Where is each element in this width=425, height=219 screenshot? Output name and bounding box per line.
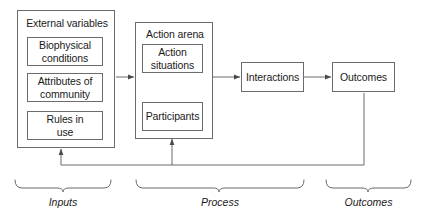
- biophysical-conditions-label: Biophysical conditions: [39, 39, 91, 64]
- interactions-box[interactable]: Interactions: [241, 62, 304, 92]
- phase-label-process: Process: [136, 196, 304, 208]
- attributes-of-community-line1: Attributes of: [38, 75, 93, 87]
- brace-inputs: [15, 180, 111, 192]
- action-situations-label: Action situations: [151, 46, 194, 71]
- brace-process: [136, 180, 304, 192]
- biophysical-conditions-line2: conditions: [42, 52, 88, 64]
- participants-label: Participants: [146, 110, 200, 123]
- interactions-label: Interactions: [246, 71, 299, 84]
- rules-in-use-box[interactable]: Rules in use: [27, 111, 103, 140]
- biophysical-conditions-line1: Biophysical: [39, 39, 91, 51]
- participants-box[interactable]: Participants: [142, 102, 203, 131]
- attributes-of-community-box[interactable]: Attributes of community: [27, 73, 103, 102]
- attributes-of-community-label: Attributes of community: [38, 75, 93, 100]
- action-situations-line1: Action: [158, 46, 187, 58]
- action-arena-title: Action arena: [136, 28, 214, 41]
- action-situations-line2: situations: [151, 59, 194, 71]
- attributes-of-community-line2: community: [40, 88, 90, 100]
- diagram-canvas: External variables Biophysical condition…: [0, 0, 425, 219]
- brace-outcomes: [326, 180, 411, 192]
- action-situations-box[interactable]: Action situations: [142, 44, 203, 73]
- rules-in-use-line1: Rules in: [46, 113, 83, 125]
- rules-in-use-label: Rules in use: [46, 113, 83, 138]
- external-variables-title: External variables: [18, 17, 116, 30]
- biophysical-conditions-box[interactable]: Biophysical conditions: [27, 37, 103, 66]
- rules-in-use-line2: use: [57, 126, 74, 138]
- phase-label-outcomes: Outcomes: [326, 196, 411, 208]
- outcomes-box[interactable]: Outcomes: [332, 62, 395, 92]
- phase-label-inputs: Inputs: [15, 196, 111, 208]
- outcomes-label: Outcomes: [340, 71, 387, 84]
